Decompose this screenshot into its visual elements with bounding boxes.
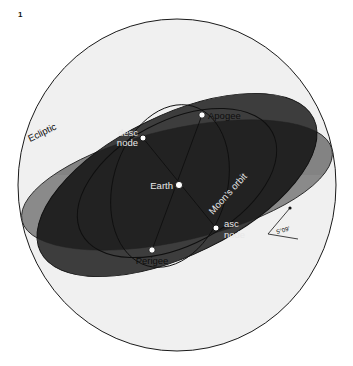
- perigee-label: Perigee: [136, 255, 169, 266]
- lunar-orbit-diagram: Apogee Perigee desc node asc node Earth …: [0, 0, 353, 366]
- earth-marker[interactable]: [175, 181, 182, 188]
- ascending-node-marker[interactable]: [213, 225, 219, 231]
- earth-label: Earth: [150, 180, 173, 191]
- descending-node-marker[interactable]: [140, 135, 146, 141]
- ascending-node-label-line1: asc: [224, 218, 239, 229]
- ascending-node-label-line2: node: [224, 229, 245, 240]
- perigee-marker[interactable]: [149, 247, 155, 253]
- apogee-marker[interactable]: [199, 112, 205, 118]
- apogee-label: Apogee: [208, 110, 241, 121]
- descending-node-label-line2: node: [117, 137, 138, 148]
- inclination-vertex: [288, 206, 291, 209]
- figure-root: 1: [0, 0, 353, 366]
